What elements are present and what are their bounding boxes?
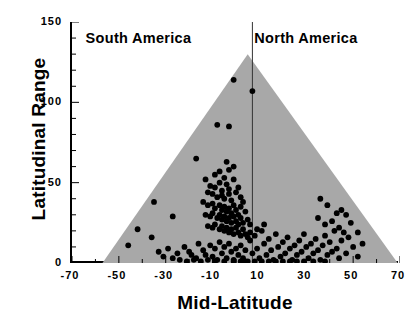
data-point <box>231 77 237 83</box>
data-point <box>240 220 246 226</box>
data-point <box>212 172 218 178</box>
x-tick-label: -10 <box>191 269 231 281</box>
data-point <box>196 241 202 247</box>
data-point <box>182 244 188 250</box>
data-point <box>306 255 312 261</box>
data-point <box>207 242 213 248</box>
x-tick-label: -70 <box>50 269 90 281</box>
data-point <box>254 226 260 232</box>
data-point <box>221 175 227 181</box>
data-point <box>301 231 307 237</box>
data-point <box>266 236 272 242</box>
data-point <box>191 257 197 263</box>
data-point <box>186 249 192 255</box>
data-point <box>212 246 218 252</box>
data-point <box>247 222 253 228</box>
data-point <box>233 189 239 195</box>
data-point <box>346 234 352 240</box>
data-point <box>203 177 209 183</box>
data-point <box>217 180 223 186</box>
data-point <box>282 250 288 256</box>
data-point <box>149 234 155 240</box>
data-point <box>224 159 230 165</box>
data-point <box>210 191 216 197</box>
data-point <box>339 238 345 244</box>
data-point <box>332 228 338 234</box>
data-point <box>233 246 239 252</box>
data-point <box>334 210 340 216</box>
annotation-north-america: North America <box>254 30 357 46</box>
data-point <box>292 242 298 248</box>
data-point <box>303 244 309 250</box>
data-point <box>299 249 305 255</box>
data-point <box>310 250 316 256</box>
data-point <box>329 249 335 255</box>
data-point <box>308 241 314 247</box>
data-point <box>170 214 176 220</box>
data-point <box>339 207 345 213</box>
data-point <box>200 199 206 205</box>
data-point <box>238 242 244 248</box>
data-point <box>320 242 326 248</box>
data-point <box>245 234 251 240</box>
data-point <box>212 185 218 191</box>
x-tick-label: -50 <box>97 269 137 281</box>
data-point <box>261 241 267 247</box>
data-point <box>193 156 199 162</box>
data-point <box>177 257 183 263</box>
data-point <box>334 246 340 252</box>
data-point <box>235 252 241 258</box>
data-point <box>250 88 256 94</box>
data-point <box>151 199 157 205</box>
data-point <box>343 250 349 256</box>
data-point <box>175 250 181 256</box>
y-tick-label: 50 <box>28 176 62 188</box>
data-point <box>329 218 335 224</box>
data-point <box>317 196 323 202</box>
data-point <box>170 255 176 261</box>
annotation-south-america: South America <box>86 30 192 46</box>
data-point <box>348 220 354 226</box>
data-point <box>360 241 366 247</box>
data-point <box>350 244 356 250</box>
data-point <box>315 215 321 221</box>
data-point <box>268 247 274 253</box>
x-tick-label: 50 <box>331 269 371 281</box>
data-point <box>341 230 347 236</box>
data-point <box>324 252 330 258</box>
data-point <box>315 247 321 253</box>
data-point <box>287 246 293 252</box>
data-point <box>261 222 267 228</box>
data-point <box>226 191 232 197</box>
data-point <box>296 238 302 244</box>
data-point <box>221 244 227 250</box>
plot-svg <box>72 22 400 263</box>
data-point <box>135 226 141 232</box>
data-point <box>343 212 349 218</box>
data-point <box>219 250 225 256</box>
data-point <box>242 247 248 253</box>
data-point <box>254 246 260 252</box>
data-point <box>231 177 237 183</box>
data-point <box>324 202 330 208</box>
data-point <box>264 252 270 258</box>
data-point <box>160 254 166 260</box>
data-point <box>238 204 244 210</box>
data-point <box>221 196 227 202</box>
data-point <box>294 252 300 258</box>
data-point <box>242 209 248 215</box>
data-point <box>327 239 333 245</box>
data-point <box>217 169 223 175</box>
plot-area <box>70 22 398 263</box>
x-tick-label: 30 <box>284 269 324 281</box>
data-point <box>252 233 258 239</box>
data-point <box>280 239 286 245</box>
data-point <box>205 257 211 263</box>
x-axis-title: Mid-Latitude <box>70 292 400 314</box>
data-point <box>273 231 279 237</box>
data-point <box>313 236 319 242</box>
data-point <box>210 210 216 216</box>
data-point <box>336 255 342 261</box>
data-point <box>355 254 361 260</box>
data-point <box>212 222 218 228</box>
